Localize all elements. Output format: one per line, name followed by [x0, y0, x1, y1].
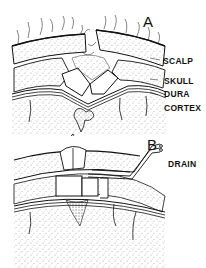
- repaired-fracture-illustration: [0, 134, 206, 268]
- label-dura: DURA: [164, 89, 190, 99]
- panel-b: B DRAIN: [0, 134, 206, 268]
- label-scalp: SCALP: [163, 56, 193, 66]
- label-skull: SKULL: [164, 76, 194, 86]
- label-drain: DRAIN: [168, 159, 196, 169]
- panel-letter-b: B: [147, 136, 157, 153]
- panel-letter-a: A: [143, 13, 153, 30]
- skull-layer-left: [14, 58, 70, 92]
- cortex-layer: [14, 207, 165, 268]
- panel-a: A SCALP SKULL DURA CORTEX: [0, 0, 206, 134]
- depressed-skull-fracture-illustration: [0, 0, 206, 134]
- label-cortex: CORTEX: [164, 103, 201, 113]
- bone-fragment-1: [56, 176, 82, 196]
- bone-fragment-2: [82, 178, 98, 196]
